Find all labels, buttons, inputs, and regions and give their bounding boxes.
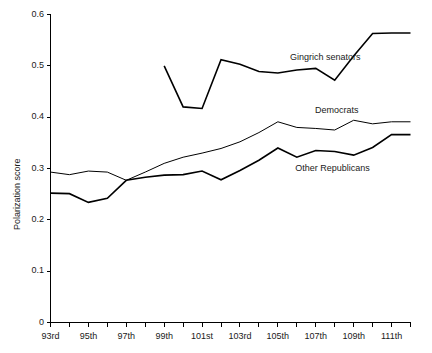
x-tick-label: 111th <box>370 331 414 341</box>
y-tick-label: 0.1 <box>12 265 44 275</box>
series-label-other-republicans: Other Republicans <box>295 163 370 173</box>
series-line-gingrich-senators <box>164 33 410 108</box>
series-label-gingrich-senators: Gingrich senators <box>290 52 361 62</box>
y-tick-label: 0.3 <box>12 163 44 173</box>
polarization-score-line-chart: Polarization score 00.10.20.30.40.50.6 9… <box>0 0 432 353</box>
y-tick-label: 0.4 <box>12 111 44 121</box>
y-tick-label: 0.5 <box>12 60 44 70</box>
series-label-democrats: Democrats <box>315 105 359 115</box>
chart-plot-area <box>0 0 432 353</box>
y-tick-label: 0 <box>12 317 44 327</box>
y-tick-label: 0.6 <box>12 9 44 19</box>
y-tick-label: 0.2 <box>12 214 44 224</box>
